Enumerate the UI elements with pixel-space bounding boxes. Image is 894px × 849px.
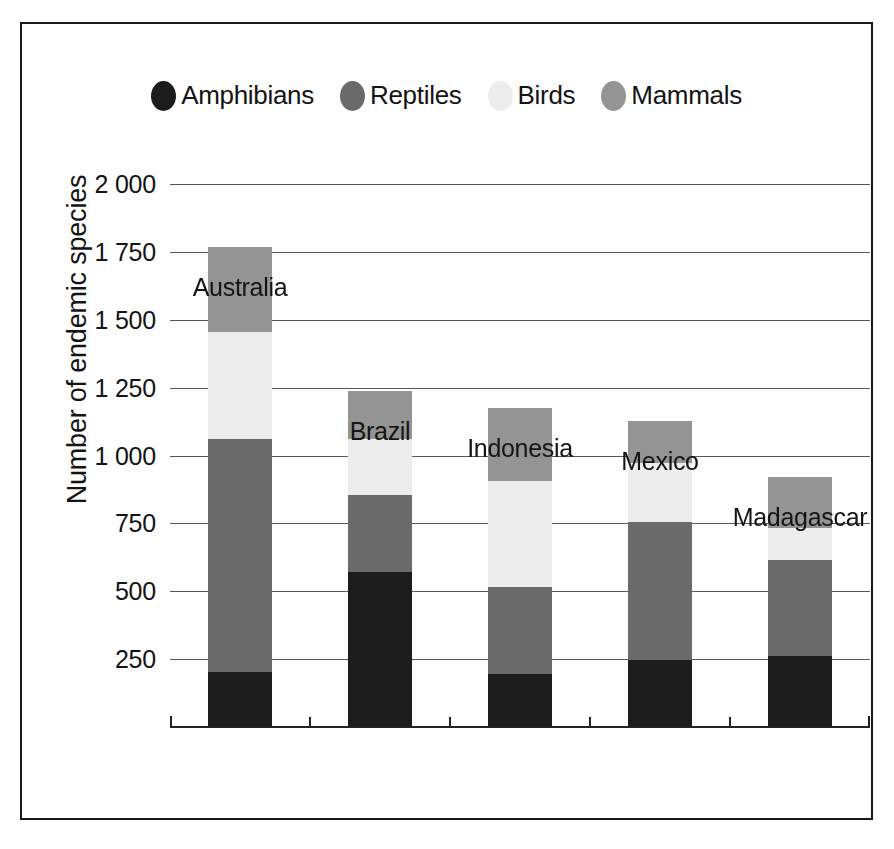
y-tick-label: 1 500: [94, 305, 156, 334]
bar-segment-reptiles[interactable]: [348, 495, 412, 572]
legend-label: Reptiles: [370, 80, 462, 111]
legend-item: Birds: [488, 80, 576, 111]
x-axis-right-cap: [868, 716, 870, 728]
y-tick-label: 0: [142, 713, 156, 742]
bar-segment-birds[interactable]: [488, 481, 552, 587]
x-axis-tick: [309, 717, 311, 728]
x-category-label: Mexico: [621, 447, 698, 476]
x-axis-line: [170, 726, 870, 728]
legend-swatch-icon: [340, 81, 365, 111]
plot-area: 02505007501 0001 2501 5001 7502 000 Aust…: [170, 185, 870, 728]
legend-swatch-icon: [151, 81, 176, 111]
gridline: 2 000: [170, 184, 870, 185]
legend-swatch-icon: [488, 81, 513, 111]
bar-group[interactable]: Australia: [208, 247, 272, 728]
y-tick-label: 1 000: [94, 441, 156, 470]
bar-segment-birds[interactable]: [768, 528, 832, 559]
bar-group[interactable]: Mexico: [628, 421, 692, 728]
y-tick-label: 1 750: [94, 237, 156, 266]
x-category-label: Indonesia: [467, 434, 573, 463]
x-axis-tick: [729, 717, 731, 728]
x-category-label: Australia: [193, 273, 288, 302]
x-category-label: Brazil: [350, 417, 411, 446]
x-axis-tick: [589, 717, 591, 728]
x-axis-left-cap: [170, 716, 172, 728]
y-tick-label: 750: [115, 509, 156, 538]
legend-item: Reptiles: [340, 80, 462, 111]
y-tick-label: 500: [115, 577, 156, 606]
x-category-label: Madagascar: [733, 503, 868, 532]
legend-item: Amphibians: [151, 80, 314, 111]
bar-group[interactable]: Brazil: [348, 391, 412, 728]
y-tick-label: 1 250: [94, 373, 156, 402]
bar-segment-reptiles[interactable]: [488, 587, 552, 674]
bar-stack: [208, 247, 272, 728]
bar-segment-birds[interactable]: [348, 439, 412, 495]
bar-group[interactable]: Madagascar: [768, 477, 832, 728]
bar-segment-reptiles[interactable]: [628, 522, 692, 660]
gridline: 1 250: [170, 388, 870, 389]
y-tick-label: 250: [115, 645, 156, 674]
legend-label: Birds: [518, 80, 576, 111]
legend-label: Amphibians: [181, 80, 314, 111]
bar-segment-amphibians[interactable]: [768, 656, 832, 728]
bar-segment-reptiles[interactable]: [208, 439, 272, 672]
gridline: 1 500: [170, 320, 870, 321]
bar-segment-reptiles[interactable]: [768, 560, 832, 656]
bar-group[interactable]: Indonesia: [488, 408, 552, 728]
legend-swatch-icon: [601, 81, 626, 111]
gridline: 1 750: [170, 252, 870, 253]
y-tick-label: 2 000: [94, 170, 156, 199]
legend-label: Mammals: [631, 80, 742, 111]
chart-frame: AmphibiansReptilesBirdsMammals Number of…: [20, 22, 873, 820]
x-axis-tick: [449, 717, 451, 728]
chart-legend: AmphibiansReptilesBirdsMammals: [22, 80, 871, 111]
legend-item: Mammals: [601, 80, 742, 111]
bar-segment-amphibians[interactable]: [348, 572, 412, 728]
bar-segment-amphibians[interactable]: [488, 674, 552, 728]
bar-segment-birds[interactable]: [208, 332, 272, 439]
y-axis-title: Number of endemic species: [62, 80, 93, 600]
bar-segment-amphibians[interactable]: [208, 672, 272, 728]
bar-segment-amphibians[interactable]: [628, 660, 692, 728]
